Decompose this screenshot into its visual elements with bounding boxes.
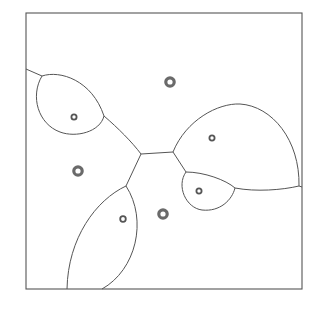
cell-boundary-small-right [182, 172, 235, 210]
cell-boundary-lower-lens [67, 186, 126, 289]
edge-dome-to-small [173, 152, 186, 172]
site-small-1 [71, 114, 76, 119]
site-small-3 [196, 188, 201, 193]
bounding-frame [26, 13, 302, 289]
edge-center-down [126, 154, 141, 186]
cell-boundary-left [26, 69, 42, 76]
voronoi-diagram [0, 0, 324, 310]
site-small-2 [209, 135, 214, 140]
edge-small-to-right-frame [235, 186, 302, 190]
site-small-4 [120, 216, 126, 222]
edge-center [141, 152, 173, 154]
site-large-2 [74, 167, 82, 175]
site-large-1 [166, 78, 174, 86]
cell-boundary-left-loop [36, 74, 104, 134]
site-large-3 [159, 210, 167, 218]
cell-boundary-lower-lens-right [102, 186, 137, 289]
edge-left-to-center [104, 116, 141, 154]
cell-boundary-right-dome [173, 104, 299, 186]
